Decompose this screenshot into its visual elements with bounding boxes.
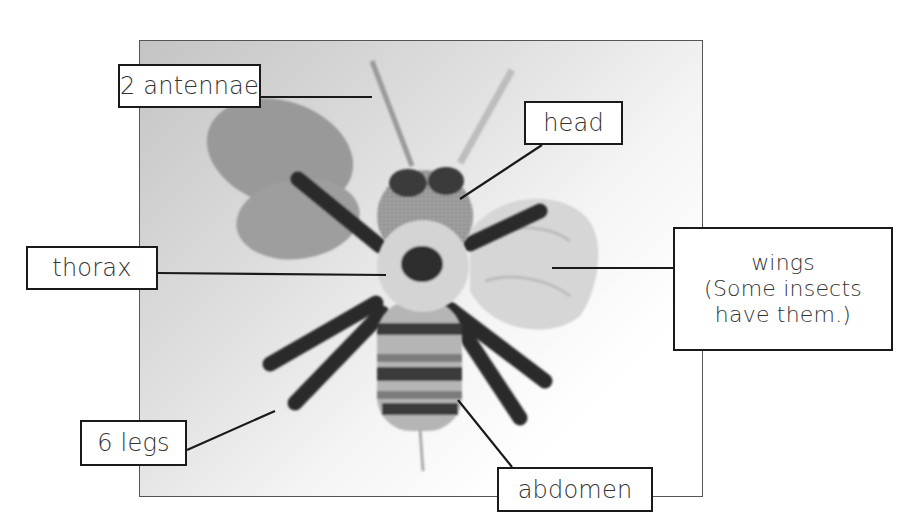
label-head: head: [524, 101, 623, 145]
label-head-text: head: [543, 109, 604, 137]
label-legs: 6 legs: [80, 420, 187, 466]
label-abdomen-text: abdomen: [518, 476, 633, 504]
insect-diagram: 2 antennae head thorax wings (Some insec…: [0, 0, 912, 529]
label-antennae-text: 2 antennae: [120, 72, 259, 100]
label-thorax: thorax: [26, 246, 158, 290]
label-legs-text: 6 legs: [97, 429, 169, 457]
label-thorax-text: thorax: [52, 254, 131, 282]
antennae-sticks: [372, 61, 512, 166]
thorax: [377, 220, 469, 312]
label-wings-title: wings: [751, 250, 815, 276]
label-wings: wings (Some insects have them.): [673, 227, 893, 351]
label-abdomen: abdomen: [497, 467, 653, 512]
left-wing: [193, 80, 368, 267]
abdomen: [377, 301, 462, 471]
label-antennae: 2 antennae: [118, 64, 261, 108]
label-wings-note-line2: have them.): [715, 302, 851, 328]
label-wings-note-line1: (Some insects: [704, 276, 862, 302]
